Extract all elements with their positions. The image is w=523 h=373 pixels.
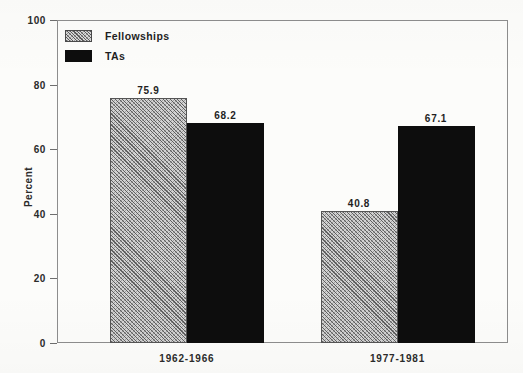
y-tick-label: 40 xyxy=(34,208,46,219)
bar-value-label: 75.9 xyxy=(137,85,159,96)
x-category-label: 1977-1981 xyxy=(370,353,425,364)
bar-chart-figure: Percent 020406080100 Fellowships TAs 75.… xyxy=(0,0,523,373)
y-tick-mark xyxy=(50,20,57,21)
legend-swatch-hatch-icon xyxy=(65,30,92,42)
y-tick-label: 0 xyxy=(40,338,46,349)
legend-label-fellowships: Fellowships xyxy=(105,30,170,42)
bar-fellowships-1962-1966: 75.9 xyxy=(110,98,187,343)
y-tick-mark xyxy=(50,149,57,150)
y-tick-mark xyxy=(50,85,57,86)
legend: Fellowships TAs xyxy=(65,29,170,69)
y-tick-label: 80 xyxy=(34,79,46,90)
legend-item-fellowships: Fellowships xyxy=(65,29,170,42)
bar-value-label: 67.1 xyxy=(425,113,447,124)
bar-fellowships-1977-1981: 40.8 xyxy=(321,211,398,343)
x-category-label: 1962-1966 xyxy=(159,353,214,364)
y-tick-label: 100 xyxy=(28,15,47,26)
bar-tas-1962-1966: 68.2 xyxy=(187,123,264,343)
y-axis-title: Percent xyxy=(23,166,34,206)
bar-tas-1977-1981: 67.1 xyxy=(398,126,475,343)
y-tick-mark xyxy=(50,214,57,215)
y-tick-label: 60 xyxy=(34,144,46,155)
bar-value-label: 40.8 xyxy=(348,198,370,209)
y-tick-label: 20 xyxy=(34,273,46,284)
bar-value-label: 68.2 xyxy=(214,110,236,121)
y-tick-mark xyxy=(50,343,57,344)
plot-area: 020406080100 Fellowships TAs 75.968.240.… xyxy=(57,20,508,343)
legend-swatch-solid-icon xyxy=(65,50,92,62)
y-tick-mark xyxy=(50,278,57,279)
legend-label-tas: TAs xyxy=(105,50,125,62)
legend-item-tas: TAs xyxy=(65,49,170,62)
